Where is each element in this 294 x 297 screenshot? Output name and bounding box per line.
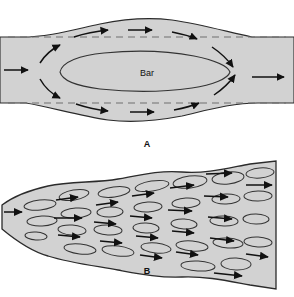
arrow-b-16 [204, 196, 228, 197]
flow-diagram-figure: Bar A [0, 0, 294, 297]
bar-shape [244, 191, 272, 201]
panel-a-label: A [144, 139, 151, 149]
panel-b-label: B [144, 266, 151, 276]
arrow-b-15 [206, 173, 232, 174]
panel-a-bar-label: Bar [140, 68, 154, 78]
arrow-b-12 [168, 210, 192, 211]
bar-shape [243, 214, 269, 224]
